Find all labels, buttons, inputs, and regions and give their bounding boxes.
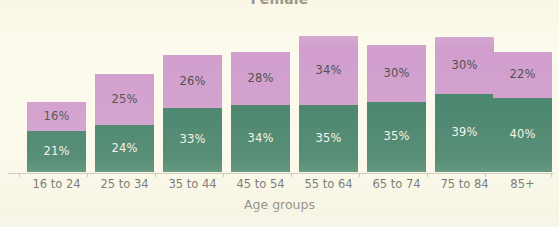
bar-value-label: 34% (316, 65, 342, 77)
bar-value-label: 35% (316, 133, 342, 145)
plot-area: 16% 21% 25% 24% 26% (0, 0, 559, 173)
bar-segment-lower[interactable]: 33% (163, 108, 222, 172)
x-axis-tick-labels: 16 to 24 25 to 34 35 to 44 45 to 54 55 t… (0, 176, 559, 194)
bar-value-label: 33% (180, 134, 206, 146)
bar-value-label: 40% (510, 129, 536, 141)
bar-value-label: 26% (180, 76, 206, 88)
bar-stack[interactable]: 28% 34% (231, 52, 290, 172)
bar-segment-upper[interactable]: 22% (493, 52, 552, 98)
bar-stack[interactable]: 25% 24% (95, 74, 154, 172)
bar-segment-lower[interactable]: 34% (231, 105, 290, 172)
bar-segment-lower[interactable]: 39% (435, 94, 494, 172)
page-margin-strip (0, 217, 559, 227)
x-tick-label: 55 to 64 (291, 176, 366, 193)
stacked-bar-chart: Female 16% 21% 25% 24% (0, 0, 559, 227)
bar-segment-lower[interactable]: 21% (27, 131, 86, 172)
bar-stack[interactable]: 30% 39% (435, 37, 494, 172)
x-axis-title: Age groups (0, 197, 559, 212)
x-tick-label: 35 to 44 (155, 176, 230, 193)
bar-value-label: 28% (248, 73, 274, 85)
bar-segment-upper[interactable]: 28% (231, 52, 290, 105)
bar-value-label: 39% (452, 127, 478, 139)
bar-value-label: 34% (248, 133, 274, 145)
bar-segment-lower[interactable]: 24% (95, 125, 154, 172)
bar-segment-upper[interactable]: 25% (95, 74, 154, 125)
bar-segment-upper[interactable]: 34% (299, 36, 358, 105)
x-tick-label: 25 to 34 (87, 176, 162, 193)
bar-segment-upper[interactable]: 30% (367, 45, 426, 102)
x-tick-label: 16 to 24 (19, 176, 94, 193)
bar-value-label: 30% (452, 60, 478, 72)
bar-value-label: 30% (384, 68, 410, 80)
bar-segment-upper[interactable]: 26% (163, 55, 222, 108)
bar-stack[interactable]: 22% 40% (493, 52, 552, 172)
bar-value-label: 22% (510, 69, 536, 81)
bar-value-label: 25% (112, 94, 138, 106)
x-axis-line (8, 173, 553, 174)
x-tick-label: 45 to 54 (223, 176, 298, 193)
bar-value-label: 16% (44, 111, 70, 123)
bar-stack[interactable]: 34% 35% (299, 36, 358, 172)
chart-title: Female (0, 0, 559, 7)
bar-segment-lower[interactable]: 40% (493, 98, 552, 172)
bar-value-label: 24% (112, 143, 138, 155)
bar-stack[interactable]: 30% 35% (367, 45, 426, 172)
bar-value-label: 35% (384, 131, 410, 143)
bar-value-label: 21% (44, 146, 70, 158)
bar-stack[interactable]: 16% 21% (27, 102, 86, 172)
x-tick-label: 85+ (485, 176, 559, 193)
bar-segment-lower[interactable]: 35% (367, 102, 426, 172)
bar-segment-lower[interactable]: 35% (299, 105, 358, 172)
bar-stack[interactable]: 26% 33% (163, 55, 222, 172)
bar-segment-upper[interactable]: 16% (27, 102, 86, 131)
bar-segment-upper[interactable]: 30% (435, 37, 494, 94)
x-tick-label: 65 to 74 (359, 176, 434, 193)
